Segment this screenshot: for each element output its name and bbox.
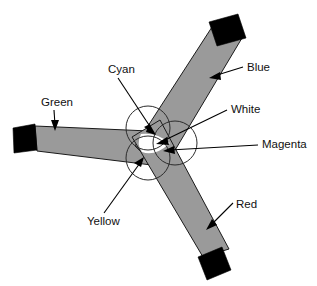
figure-canvas: Cyan Blue Green White Magenta Red Yellow bbox=[0, 0, 317, 286]
color-mixing-figure: Cyan Blue Green White Magenta Red Yellow bbox=[0, 0, 317, 286]
label-cyan: Cyan bbox=[108, 63, 135, 75]
leader-yellow bbox=[104, 157, 144, 213]
magenta-leader-line bbox=[170, 145, 258, 150]
yellow-leader-line bbox=[104, 163, 140, 213]
label-magenta: Magenta bbox=[262, 138, 307, 150]
label-white: White bbox=[231, 103, 260, 115]
projector-green bbox=[13, 124, 37, 153]
cyan-leader-line bbox=[118, 78, 151, 128]
label-blue: Blue bbox=[247, 61, 270, 73]
label-yellow: Yellow bbox=[87, 215, 121, 227]
label-green: Green bbox=[41, 96, 73, 108]
red-leader-line bbox=[212, 203, 233, 224]
label-red: Red bbox=[236, 198, 257, 210]
